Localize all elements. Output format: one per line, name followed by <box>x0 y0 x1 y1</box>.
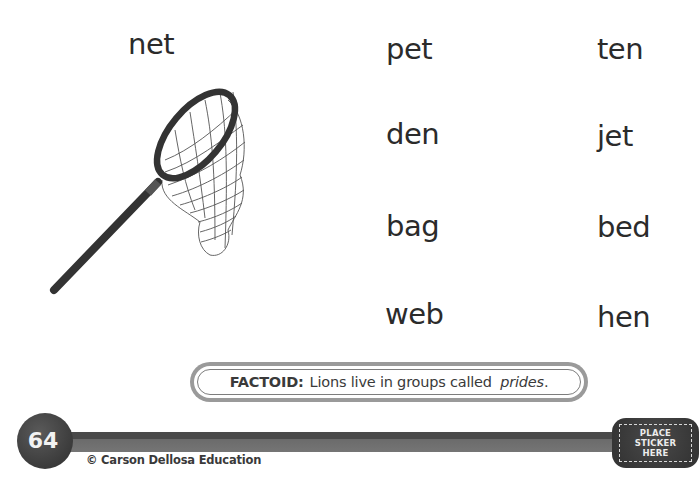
sticker-line: HERE <box>635 448 677 458</box>
word-option: web <box>385 300 443 329</box>
factoid-end: . <box>544 374 548 390</box>
factoid-content: FACTOID: Lions live in groups called pri… <box>197 369 581 395</box>
factoid-frame: FACTOID: Lions live in groups called pri… <box>194 366 584 398</box>
page-number-badge: 64 <box>17 413 73 469</box>
butterfly-net-icon <box>40 80 260 300</box>
word-option: den <box>386 120 439 149</box>
sticker-label: PLACE STICKER HERE <box>619 424 692 462</box>
word-option: jet <box>597 122 633 151</box>
page-number: 64 <box>28 428 59 453</box>
picture-word: net <box>128 30 174 59</box>
word-option: pet <box>386 35 432 64</box>
footer-bar <box>60 432 620 452</box>
factoid-emphasis: prides <box>500 374 544 390</box>
sticker-placeholder: PLACE STICKER HERE <box>612 418 699 468</box>
factoid-text: Lions live in groups called <box>310 374 497 390</box>
word-option: ten <box>597 35 643 64</box>
word-option: hen <box>597 303 650 332</box>
copyright-text: © Carson Dellosa Education <box>86 453 261 467</box>
factoid-label: FACTOID: <box>230 374 304 390</box>
factoid-box: FACTOID: Lions live in groups called pri… <box>190 362 588 402</box>
sticker-line: STICKER <box>635 438 677 448</box>
word-option: bag <box>386 212 439 241</box>
word-option: bed <box>597 213 650 242</box>
sticker-line: PLACE <box>635 428 677 438</box>
